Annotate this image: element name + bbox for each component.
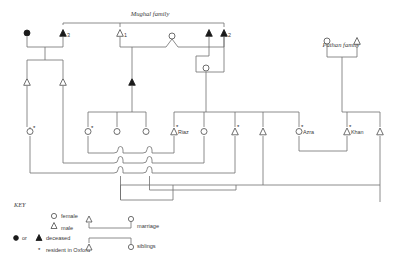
key-legend: KEY female male or deceased * resident i… xyxy=(13,201,159,253)
oxford-asterisk: * xyxy=(237,124,240,130)
person-pathan-female[interactable] xyxy=(324,38,330,44)
person-riaz-label: Riaz xyxy=(178,129,189,135)
key-deceased-or: or xyxy=(22,235,27,241)
key-deceased-female-icon xyxy=(14,236,19,241)
key-marriage-label: marriage xyxy=(137,223,159,229)
person-g3-female-5[interactable] xyxy=(201,129,207,135)
person-g3-female-4[interactable] xyxy=(143,129,149,135)
person-azra-label: Azra xyxy=(303,129,314,135)
person-g1-male-2[interactable] xyxy=(221,30,228,37)
person-g1-male-2-label: 2 xyxy=(228,32,231,38)
key-female-label: female xyxy=(61,213,78,219)
person-g1-male-1[interactable] xyxy=(117,30,124,37)
key-marriage-sample xyxy=(86,216,134,228)
oxford-asterisk: * xyxy=(91,125,94,131)
key-siblings-sample xyxy=(86,238,134,250)
key-title: KEY xyxy=(13,201,26,208)
person-g1-female-deceased[interactable] xyxy=(24,30,30,36)
key-deceased-male-icon xyxy=(36,235,42,241)
key-male-icon xyxy=(51,223,57,229)
key-oxford-label: resident in Oxford xyxy=(46,247,90,253)
person-g3-female-3[interactable] xyxy=(114,129,120,135)
person-g2-male-a[interactable] xyxy=(24,79,31,86)
oxford-asterisk: * xyxy=(33,125,36,131)
key-oxford-icon: * xyxy=(38,247,41,253)
genealogy-diagram: Mughal family Pathan family xyxy=(0,0,397,264)
azra-khan-marriage xyxy=(299,136,347,151)
g1-right-union xyxy=(196,37,224,86)
key-female-icon xyxy=(51,213,56,218)
person-g1-male-unnumbered[interactable] xyxy=(206,30,213,37)
g4-descenders xyxy=(121,136,381,202)
person-g1-female-middle[interactable] xyxy=(169,33,175,39)
g2-descenders xyxy=(27,86,299,127)
key-siblings-label: siblings xyxy=(137,243,156,249)
person-g1-male-1-label: 1 xyxy=(124,32,127,38)
person-g3-male-7[interactable] xyxy=(260,128,267,135)
person-g2-male-c[interactable] xyxy=(129,79,136,86)
key-deceased-label: deceased xyxy=(46,235,70,241)
key-male-label: male xyxy=(61,225,73,231)
person-g2-female-d[interactable] xyxy=(203,65,209,71)
pathan-family-union xyxy=(327,44,380,127)
g1-left-couple-union xyxy=(27,37,63,78)
person-g1-male-3-label: 3 xyxy=(67,32,70,38)
person-khan-label: Khan xyxy=(351,129,364,135)
mughal-family-bracket xyxy=(63,23,224,27)
person-g3-male-8[interactable] xyxy=(377,128,384,135)
person-g1-male-3[interactable] xyxy=(60,30,67,37)
mughal-family-label: Mughal family xyxy=(130,10,170,17)
marriage-band-1 xyxy=(88,136,174,153)
person-g2-male-b[interactable] xyxy=(60,79,67,86)
